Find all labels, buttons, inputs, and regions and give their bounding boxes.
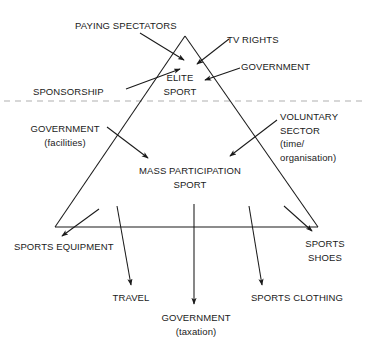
label-sports-clothing: SPORTS CLOTHING bbox=[251, 291, 343, 305]
outflow-arrows bbox=[62, 204, 312, 304]
label-sports-shoes: SPORTS SHOES bbox=[305, 237, 345, 264]
label-paying-spectators: PAYING SPECTATORS bbox=[75, 19, 177, 33]
label-voluntary-sector: VOLUNTARY SECTOR (time/ organisation) bbox=[280, 110, 338, 164]
label-sponsorship: SPONSORSHIP bbox=[33, 85, 104, 99]
arrow-government-facilities bbox=[107, 127, 148, 158]
node-mass-participation-sport: MASS PARTICIPATION SPORT bbox=[139, 164, 241, 191]
arrow-sports-equipment bbox=[62, 209, 99, 236]
arrow-tv-rights bbox=[197, 39, 229, 64]
arrow-travel bbox=[117, 206, 131, 285]
arrow-government-elite bbox=[205, 68, 240, 80]
label-government-facilities: GOVERNMENT (facilities) bbox=[30, 122, 99, 149]
arrow-sports-clothing bbox=[249, 206, 262, 285]
label-government-taxation: GOVERNMENT (taxation) bbox=[161, 311, 230, 338]
arrow-voluntary-sector bbox=[230, 120, 277, 156]
mass-inflow-arrows bbox=[107, 120, 277, 158]
label-tv-rights: TV RIGHTS bbox=[227, 33, 279, 47]
diagram-canvas: PAYING SPECTATORS TV RIGHTS GOVERNMENT S… bbox=[0, 0, 370, 356]
label-sports-equipment: SPORTS EQUIPMENT bbox=[14, 240, 114, 254]
label-travel: TRAVEL bbox=[113, 291, 150, 305]
node-elite-sport: ELITE SPORT bbox=[163, 71, 196, 98]
label-government-elite: GOVERNMENT bbox=[241, 60, 310, 74]
